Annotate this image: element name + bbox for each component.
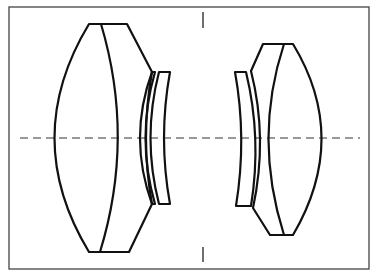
rear-meniscus-1 xyxy=(235,72,255,206)
rear-cemented-doublet xyxy=(251,44,322,235)
lens-diagram xyxy=(0,0,373,275)
